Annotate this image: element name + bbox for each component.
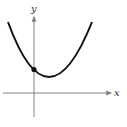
y-intercept-point — [31, 67, 36, 72]
parabola-graph: x y — [0, 0, 127, 127]
parabola-curve — [8, 22, 92, 77]
x-axis-label: x — [114, 87, 120, 98]
y-axis-label: y — [30, 3, 37, 14]
